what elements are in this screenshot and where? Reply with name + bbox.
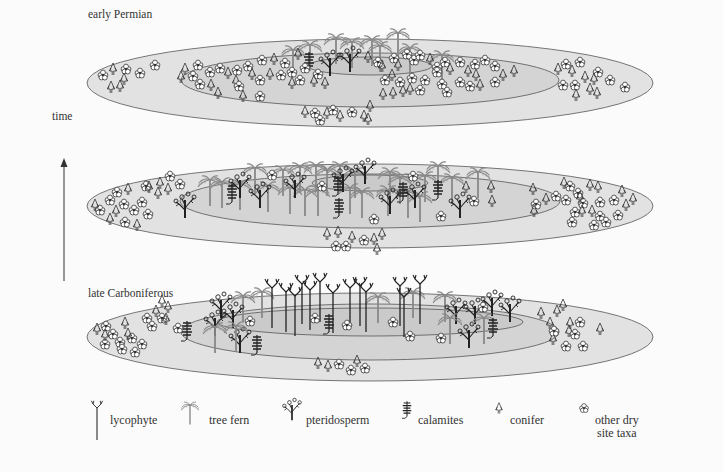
label-early-permian: early Permian (88, 8, 152, 20)
legend-conifer-label: conifer (510, 414, 544, 427)
legend-other-dry-label-line2: site taxa (597, 427, 637, 440)
tree-fern-icon (181, 402, 199, 425)
legend-pteridosperm: pteridosperm (302, 414, 369, 427)
calamites-icon (402, 401, 411, 418)
legend-calamites-label: calamites (418, 414, 463, 427)
other-dry-site-taxa-icon (580, 404, 589, 413)
label-time-axis: time (52, 110, 72, 122)
time-arrow (61, 158, 68, 281)
panel-early-permian (87, 29, 653, 127)
pteridosperm-icon (283, 398, 302, 420)
conifer-icon (496, 403, 502, 414)
legend-tree-fern-label: tree fern (209, 414, 249, 427)
legend-lycophyte-label: lycophyte (110, 414, 157, 427)
legend-other-dry-site-taxa: other dry site taxa (591, 414, 639, 440)
diagram-canvas (0, 0, 723, 472)
lycophyte-icon (91, 401, 102, 440)
legend-conifer: conifer (506, 414, 544, 427)
legend-pteridosperm-label: pteridosperm (306, 414, 369, 427)
legend-lycophyte: lycophyte (106, 414, 157, 427)
legend-calamites: calamites (414, 414, 463, 427)
legend-tree-fern: tree fern (205, 414, 249, 427)
label-late-carboniferous: late Carboniferous (88, 287, 173, 299)
panel-intermediate (87, 158, 653, 255)
